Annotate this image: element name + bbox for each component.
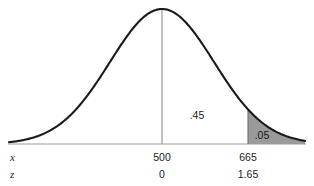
tick-label-z-1: 1.65 xyxy=(238,169,258,180)
tick-label-z-0: 0 xyxy=(159,169,165,180)
tick-label-x-1: 665 xyxy=(239,152,257,163)
plot-area xyxy=(8,9,306,144)
axis-row-label-z: z xyxy=(10,169,14,180)
normal-distribution-figure: .45 .05 x z 50066501.65 xyxy=(0,0,314,186)
area-label-tail: .05 xyxy=(255,130,270,141)
tick-label-x-0: 500 xyxy=(153,152,171,163)
area-label-body: .45 xyxy=(190,110,205,121)
bell-curve xyxy=(9,9,305,142)
axis-row-label-x: x xyxy=(10,152,15,163)
